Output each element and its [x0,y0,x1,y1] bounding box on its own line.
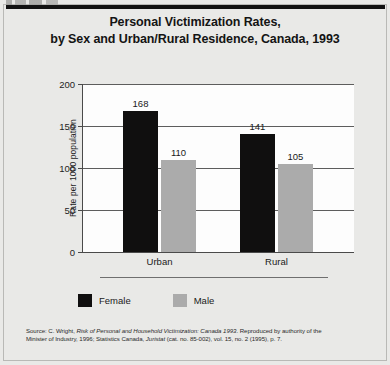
chart-title: Personal Victimization Rates, by Sex and… [0,14,390,48]
legend-item-male[interactable]: Male [173,294,215,307]
source-line1-post: . Reproduced by authority of the [236,327,321,334]
chart-title-line2: by Sex and Urban/Rural Residence, Canada… [0,31,390,48]
x-tick-label-urban: Urban [147,256,173,267]
source-note-line1: Source: C. Wright, Risk of Personal and … [26,327,366,335]
bar-rural-female [240,134,275,252]
y-axis-title: Rate per 1000 population [68,84,78,252]
x-axis-line [82,252,354,253]
source-note-line2: Minister of Industry, 1996; Statistics C… [26,335,366,343]
chart-legend: FemaleMale [78,292,214,308]
bar-urban-female [123,111,158,252]
bar-value-label: 105 [288,151,304,162]
top-rule-divider [6,5,385,9]
gridline [82,84,354,85]
source-line2-title: Juristat [146,335,165,342]
legend-swatch-icon [173,294,187,307]
legend-swatch-icon [78,294,92,307]
bar-rural-male [278,164,313,252]
source-note: Source: C. Wright, Risk of Personal and … [26,327,366,343]
bar-urban-male [161,160,196,252]
legend-item-female[interactable]: Female [78,294,131,307]
legend-label: Female [99,295,131,306]
x-tick-label-rural: Rural [265,256,288,267]
plot-area: 050100150200 168110141105 Rate per 1000 … [82,84,354,252]
bar-value-label: 110 [171,147,186,158]
bar-value-label: 168 [133,98,149,109]
legend-separator-rule [100,277,328,278]
source-line2-pre: Minister of Industry, 1996; Statistics C… [26,335,146,342]
y-axis-line [82,84,83,252]
bar-value-label: 141 [250,121,266,132]
chart-title-line1: Personal Victimization Rates, [109,15,280,29]
source-line1-title: Risk of Personal and Household Victimiza… [76,327,236,334]
legend-label: Male [194,295,215,306]
source-line1-pre: Source: C. Wright, [26,327,76,334]
figure-container: Personal Victimization Rates, by Sex and… [0,0,390,365]
source-line2-post: (cat. no. 85-002), vol. 15, no. 2 (1995)… [165,335,282,342]
